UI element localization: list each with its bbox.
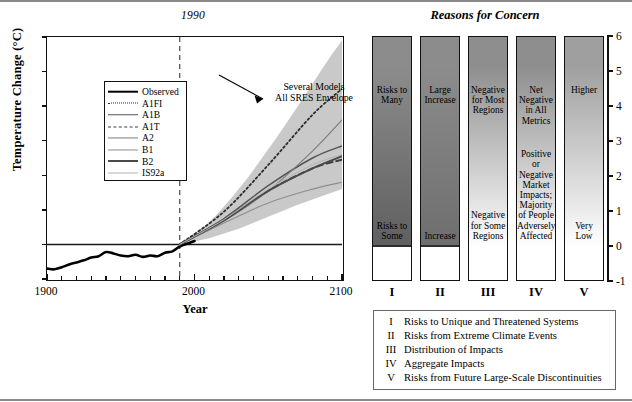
rfc-legend-row: VRisks from Future Large-Scale Discontin… <box>378 372 611 386</box>
ember-top-label: LargeIncrease <box>421 85 459 105</box>
x-tick-label: 2000 <box>171 285 217 297</box>
rfc-legend-row: IIIDistribution of Impacts <box>378 344 611 358</box>
reasons-for-concern-panel: Reasons for Concern Risks toManyRisks to… <box>360 0 632 402</box>
x-tick-mark <box>253 276 254 281</box>
plot-clip <box>47 37 343 280</box>
legend-row: IS92a <box>108 167 183 179</box>
legend-label: B2 <box>142 157 153 167</box>
legend-row: A2 <box>108 132 183 144</box>
legend-label: IS92a <box>142 168 164 178</box>
roman-numeral-ii: II <box>417 285 463 300</box>
right-tick-mark <box>607 210 613 211</box>
ember-bar-iv: NetNegativein AllMetricsPositiveorNegati… <box>516 36 556 281</box>
rfc-legend-description: Risks from Extreme Climate Events <box>404 330 557 341</box>
x-tick-mark <box>282 276 283 281</box>
year-1990-marker-label: 1990 <box>163 9 223 21</box>
rfc-legend-description: Aggregate Impacts <box>404 358 484 369</box>
right-tick-mark <box>607 175 613 176</box>
x-tick-mark <box>312 276 313 281</box>
ember-bars-area: Risks toManyRisks toSomeLargeIncreaseInc… <box>372 36 604 281</box>
right-tick-mark <box>607 70 613 71</box>
legend-swatch-is92a <box>108 168 138 178</box>
ember-bottom-label: Increase <box>421 231 459 241</box>
ember-zero-line <box>421 245 459 247</box>
legend-label: Observed <box>142 87 179 97</box>
right-tick-label: 2 <box>616 171 632 181</box>
legend-swatch-b1 <box>108 145 138 155</box>
x-tick-mark <box>105 276 106 281</box>
legend-swatch-b2 <box>108 156 138 166</box>
roman-numeral-iii: III <box>465 285 511 300</box>
right-tick-label: 0 <box>616 241 632 251</box>
x-tick-mark <box>76 276 77 281</box>
rfc-legend-description: Distribution of Impacts <box>404 344 503 355</box>
x-tick-mark <box>150 276 151 281</box>
legend-row: A1B <box>108 109 183 121</box>
right-tick-label: -1 <box>616 276 632 286</box>
rfc-legend-row: IRisks to Unique and Threatened Systems <box>378 316 611 330</box>
y-tick-mark <box>42 36 47 37</box>
right-tick-mark <box>607 105 613 106</box>
rfc-legend-numeral: II <box>378 330 404 341</box>
legend-swatch-a1fi <box>108 98 138 108</box>
rfc-legend-row: IIRisks from Extreme Climate Events <box>378 330 611 344</box>
rfc-legend-description: Risks to Unique and Threatened Systems <box>404 316 578 327</box>
y-axis-title: Temperature Change (°C) <box>10 20 25 180</box>
sres-envelope-band <box>180 40 342 244</box>
plot-svg <box>47 37 342 279</box>
plot-frame: 6543210-1 ObservedA1FIA1BA1TA2B1B2IS92a … <box>46 36 344 281</box>
roman-numeral-v: V <box>561 285 607 300</box>
ember-bar-i: Risks toManyRisks toSome <box>372 36 412 281</box>
right-tick-label: 3 <box>616 136 632 146</box>
right-axis-line <box>607 36 609 281</box>
legend-swatch-a1b <box>108 110 138 120</box>
right-tick-mark <box>607 245 613 246</box>
ember-bar-iii: Negativefor MostRegionsNegativefor SomeR… <box>468 36 508 281</box>
rfc-legend-numeral: IV <box>378 358 404 369</box>
legend-label: B1 <box>142 145 153 155</box>
x-tick-mark <box>238 276 239 281</box>
rfc-legend-description: Risks from Future Large-Scale Discontinu… <box>404 372 602 383</box>
legend-row: A1FI <box>108 98 183 110</box>
right-tick-mark <box>607 35 613 36</box>
ember-top-label: NetNegativein AllMetrics <box>517 85 555 126</box>
rfc-legend-numeral: V <box>378 372 404 383</box>
y-tick-mark <box>42 175 47 176</box>
legend-row: Observed <box>108 86 183 98</box>
scenario-legend: ObservedA1FIA1BA1TA2B1B2IS92a <box>104 81 187 181</box>
reasons-for-concern-title: Reasons for Concern <box>360 8 610 23</box>
legend-label: A1FI <box>142 99 162 109</box>
x-tick-mark <box>223 276 224 281</box>
series-line-observed <box>47 241 195 269</box>
sres-envelope-annotation: Several Models All SRES Envelope <box>253 81 375 103</box>
ember-bottom-label: VeryLow <box>565 221 603 241</box>
legend-row: A1T <box>108 121 183 133</box>
ember-bottom-label: Negativefor SomeRegions <box>469 210 507 241</box>
x-tick-mark <box>179 276 180 281</box>
legend-label: A2 <box>142 133 154 143</box>
ember-zero-line <box>373 245 411 247</box>
annotation-line-2: All SRES Envelope <box>253 92 375 103</box>
legend-label: A1B <box>142 110 160 120</box>
ember-gradient <box>373 37 411 247</box>
y-tick-mark <box>42 140 47 141</box>
legend-row: B1 <box>108 144 183 156</box>
x-tick-mark <box>209 276 210 281</box>
annotation-line-1: Several Models <box>253 81 375 92</box>
right-tick-label: 1 <box>616 206 632 216</box>
ember-gradient <box>421 37 459 247</box>
x-tick-mark <box>135 276 136 281</box>
reasons-for-concern-legend: IRisks to Unique and Threatened SystemsI… <box>373 310 616 390</box>
x-tick-mark <box>268 276 269 281</box>
right-tick-label: 6 <box>616 31 632 41</box>
legend-swatch-a1t <box>108 122 138 132</box>
legend-swatch-observed <box>108 87 138 97</box>
y-tick-mark <box>42 209 47 210</box>
x-tick-mark <box>120 276 121 281</box>
legend-label: A1T <box>142 122 160 132</box>
rfc-legend-row: IVAggregate Impacts <box>378 358 611 372</box>
x-tick-mark <box>297 276 298 281</box>
y-tick-mark <box>42 244 47 245</box>
rfc-legend-numeral: III <box>378 344 404 355</box>
x-tick-mark <box>194 274 195 281</box>
